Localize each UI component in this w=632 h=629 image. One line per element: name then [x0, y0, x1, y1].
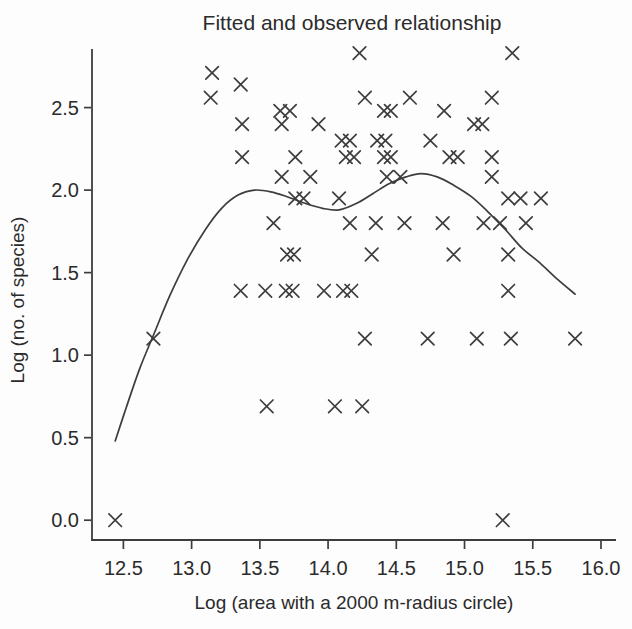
scatter-point [514, 192, 527, 205]
scatter-point [476, 118, 489, 131]
scatter-points [109, 47, 582, 527]
scatter-point [502, 248, 515, 261]
scatter-point [502, 285, 515, 298]
scatter-point [345, 285, 358, 298]
y-axis-tick-label: 2.5 [51, 97, 79, 119]
scatter-point [329, 400, 342, 413]
scatter-point [520, 217, 533, 230]
x-axis-tick-label: 15.5 [513, 557, 552, 579]
x-axis-tick-label: 12.5 [104, 557, 143, 579]
scatter-point [259, 285, 272, 298]
scatter-point [236, 151, 249, 164]
chart-figure: Fitted and observed relationship Log (no… [0, 0, 632, 629]
scatter-point [365, 248, 378, 261]
scatter-plot: Fitted and observed relationship Log (no… [0, 0, 632, 629]
scatter-point [281, 248, 294, 261]
y-axis-tick-label: 2.0 [51, 179, 79, 201]
scatter-point [280, 285, 293, 298]
scatter-point [359, 332, 372, 345]
scatter-point [486, 171, 499, 184]
chart-title: Fitted and observed relationship [203, 11, 502, 34]
x-axis-tick-label: 13.0 [172, 557, 211, 579]
scatter-point [234, 78, 247, 91]
fitted-curve [115, 174, 575, 441]
scatter-point [344, 217, 357, 230]
scatter-point [447, 248, 460, 261]
x-axis-tick-label: 16.0 [582, 557, 621, 579]
scatter-point [477, 217, 490, 230]
scatter-point [505, 332, 518, 345]
scatter-point [385, 105, 398, 118]
scatter-point [109, 514, 122, 527]
scatter-point [304, 171, 317, 184]
y-axis-label: Log (no. of species) [7, 217, 28, 384]
scatter-point [318, 285, 331, 298]
scatter-point [284, 105, 297, 118]
y-axis-ticks: 0.00.51.01.52.02.5 [51, 97, 91, 532]
y-axis-tick-label: 0.5 [51, 427, 79, 449]
y-axis-tick-label: 0.0 [51, 509, 79, 531]
scatter-point [286, 285, 299, 298]
scatter-point [486, 91, 499, 104]
scatter-point [421, 332, 434, 345]
scatter-point [451, 151, 464, 164]
scatter-point [471, 332, 484, 345]
x-axis-tick-label: 14.5 [377, 557, 416, 579]
scatter-point [356, 400, 369, 413]
scatter-point [333, 192, 346, 205]
scatter-point [486, 151, 499, 164]
scatter-point [275, 118, 288, 131]
scatter-point [378, 105, 391, 118]
scatter-point [502, 192, 515, 205]
scatter-point [424, 134, 437, 147]
x-axis-tick-label: 13.5 [240, 557, 279, 579]
scatter-point [506, 47, 519, 60]
scatter-point [204, 91, 217, 104]
y-axis-tick-label: 1.5 [51, 262, 79, 284]
scatter-point [344, 134, 357, 147]
y-axis-tick-label: 1.0 [51, 344, 79, 366]
scatter-point [496, 514, 509, 527]
x-axis-tick-label: 14.0 [309, 557, 348, 579]
scatter-point [288, 248, 301, 261]
scatter-point [385, 151, 398, 164]
scatter-point [234, 285, 247, 298]
scatter-point [494, 217, 507, 230]
scatter-point [370, 217, 383, 230]
x-axis-tick-label: 15.0 [445, 557, 484, 579]
scatter-point [535, 192, 548, 205]
scatter-point [438, 105, 451, 118]
scatter-point [381, 171, 394, 184]
x-axis-ticks: 12.513.013.514.014.515.015.516.0 [104, 541, 621, 579]
scatter-point [436, 217, 449, 230]
scatter-point [267, 217, 280, 230]
scatter-point [260, 400, 273, 413]
scatter-point [404, 91, 417, 104]
scatter-point [398, 217, 411, 230]
scatter-point [236, 118, 249, 131]
scatter-point [312, 118, 325, 131]
scatter-point [206, 67, 219, 80]
scatter-point [353, 47, 366, 60]
scatter-point [379, 134, 392, 147]
scatter-point [569, 332, 582, 345]
scatter-point [378, 151, 391, 164]
x-axis-label: Log (area with a 2000 m-radius circle) [195, 592, 514, 613]
scatter-point [275, 171, 288, 184]
scatter-point [289, 151, 302, 164]
scatter-point [348, 151, 361, 164]
scatter-point [359, 91, 372, 104]
